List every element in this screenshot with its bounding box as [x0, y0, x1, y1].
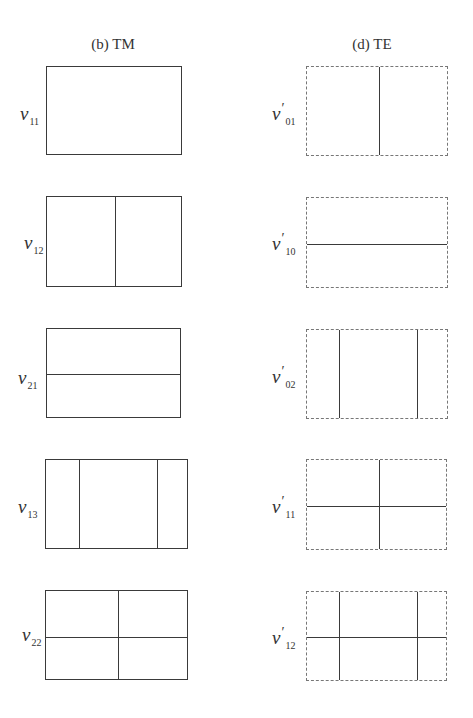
waveguide-box-te-prime-02 [306, 329, 448, 419]
waveguide-box-tm-21 [46, 328, 181, 418]
mode-subscript: 22 [31, 637, 41, 648]
waveguide-box-tm-22 [45, 590, 188, 680]
nodal-line-vertical [379, 460, 380, 549]
mode-symbol: v [272, 627, 280, 648]
nodal-line-vertical [118, 591, 119, 679]
waveguide-box-tm-12 [46, 196, 182, 287]
mode-label-te-prime-12: v′12 [272, 628, 296, 647]
mode-label-te-prime-11: v′11 [272, 497, 295, 516]
mode-subscript: 10 [286, 246, 296, 257]
mode-symbol: v [272, 366, 280, 387]
mode-label-tm-12: v12 [24, 233, 43, 252]
nodal-line-horizontal [47, 374, 180, 375]
mode-subscript: 21 [27, 380, 37, 391]
mode-prime: ′ [281, 625, 284, 640]
mode-subscript: 11 [286, 509, 296, 520]
mode-symbol: v [272, 103, 280, 124]
mode-prime: ′ [281, 101, 284, 116]
mode-symbol: v [22, 624, 30, 645]
waveguide-box-te-prime-01 [306, 66, 448, 156]
nodal-line-horizontal [307, 637, 446, 638]
mode-symbol: v [20, 103, 28, 124]
nodal-line-horizontal [307, 244, 447, 245]
mode-label-tm-13: v13 [18, 497, 37, 516]
nodal-line-vertical [379, 67, 380, 155]
nodal-line-vertical [417, 592, 418, 680]
nodal-line-vertical [339, 592, 340, 680]
mode-symbol: v [24, 232, 32, 253]
waveguide-box-te-prime-12 [306, 591, 447, 681]
column-title-tm: (b) TM [91, 36, 134, 53]
mode-symbol: v [272, 496, 280, 517]
mode-label-tm-21: v21 [18, 368, 37, 387]
mode-label-te-prime-01: v′01 [272, 104, 296, 123]
mode-prime: ′ [281, 364, 284, 379]
waveguide-box-tm-13 [45, 459, 188, 549]
mode-subscript: 11 [29, 116, 39, 127]
mode-prime: ′ [281, 231, 284, 246]
mode-label-te-prime-02: v′02 [272, 367, 296, 386]
nodal-line-vertical [115, 197, 116, 286]
nodal-line-vertical [79, 460, 80, 548]
nodal-line-horizontal [46, 637, 187, 638]
mode-label-tm-11: v11 [20, 104, 39, 123]
mode-label-tm-22: v22 [22, 625, 41, 644]
mode-symbol: v [18, 367, 26, 388]
mode-symbol: v [272, 233, 280, 254]
nodal-line-horizontal [307, 506, 446, 507]
mode-subscript: 12 [33, 245, 43, 256]
waveguide-box-te-prime-11 [306, 459, 447, 550]
mode-subscript: 12 [286, 640, 296, 651]
mode-subscript: 02 [286, 379, 296, 390]
nodal-line-vertical [417, 330, 418, 418]
waveguide-box-te-prime-10 [306, 197, 448, 288]
mode-subscript: 13 [27, 509, 37, 520]
mode-prime: ′ [281, 494, 284, 509]
column-title-te: (d) TE [352, 36, 391, 53]
nodal-line-vertical [157, 460, 158, 548]
mode-symbol: v [18, 496, 26, 517]
mode-subscript: 01 [286, 116, 296, 127]
mode-label-te-prime-10: v′10 [272, 234, 296, 253]
nodal-line-vertical [339, 330, 340, 418]
waveguide-box-tm-11 [46, 66, 182, 155]
